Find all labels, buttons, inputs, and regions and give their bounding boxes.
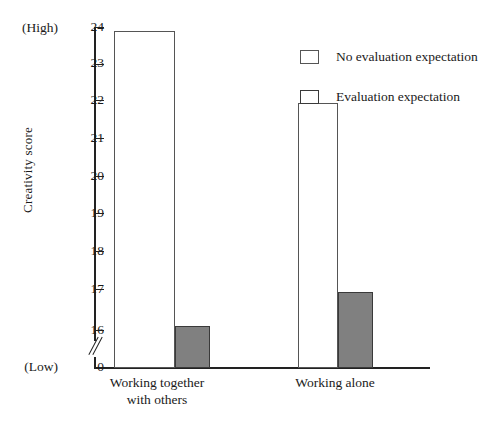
axis-break-icon <box>86 336 104 362</box>
bar-no-evaluation-working-alone <box>298 103 338 368</box>
legend-swatch-open-icon <box>300 50 319 64</box>
tick-mark <box>94 100 104 101</box>
x-axis-category-label-0: Working together with others <box>92 374 222 408</box>
y-tick-18: 18 <box>0 244 104 258</box>
tick-mark <box>94 176 104 177</box>
x-axis-category-label-1: Working alone <box>270 374 400 391</box>
bar-evaluation-working-alone <box>338 292 373 368</box>
legend: No evaluation expectation Evaluation exp… <box>300 42 499 122</box>
tick-mark <box>94 213 104 214</box>
y-tick-20: 20 <box>0 169 104 183</box>
y-axis-line <box>94 27 96 368</box>
y-tick-23: 23 <box>0 56 104 70</box>
category-label-line2: with others <box>92 391 222 408</box>
legend-item-evaluation-expectation: Evaluation expectation <box>300 82 499 112</box>
y-tick-17: 17 <box>0 282 104 296</box>
tick-mark <box>94 330 104 331</box>
tick-mark <box>94 27 104 28</box>
tick-mark <box>94 289 104 290</box>
legend-label: Evaluation expectation <box>336 90 460 104</box>
y-tick-label: 0 <box>70 360 104 374</box>
bar-chart: Creativity score (High) (Low) 24 23 22 2… <box>0 0 499 422</box>
y-tick-16: 16 <box>0 323 104 337</box>
tick-mark <box>94 251 104 252</box>
tick-mark <box>94 138 104 139</box>
bar-no-evaluation-working-together <box>114 31 175 368</box>
category-label-line1: Working together <box>92 374 222 391</box>
y-tick-0: 0 <box>0 360 104 374</box>
y-tick-21: 21 <box>0 131 104 145</box>
legend-label: No evaluation expectation <box>336 50 478 64</box>
tick-mark <box>94 64 104 65</box>
y-tick-24: 24 <box>0 20 104 34</box>
bar-evaluation-working-together <box>175 326 210 368</box>
legend-item-no-evaluation-expectation: No evaluation expectation <box>300 42 499 72</box>
y-tick-19: 19 <box>0 206 104 220</box>
legend-swatch-filled-icon <box>300 90 319 104</box>
category-label-line1: Working alone <box>270 374 400 391</box>
y-tick-22: 22 <box>0 93 104 107</box>
